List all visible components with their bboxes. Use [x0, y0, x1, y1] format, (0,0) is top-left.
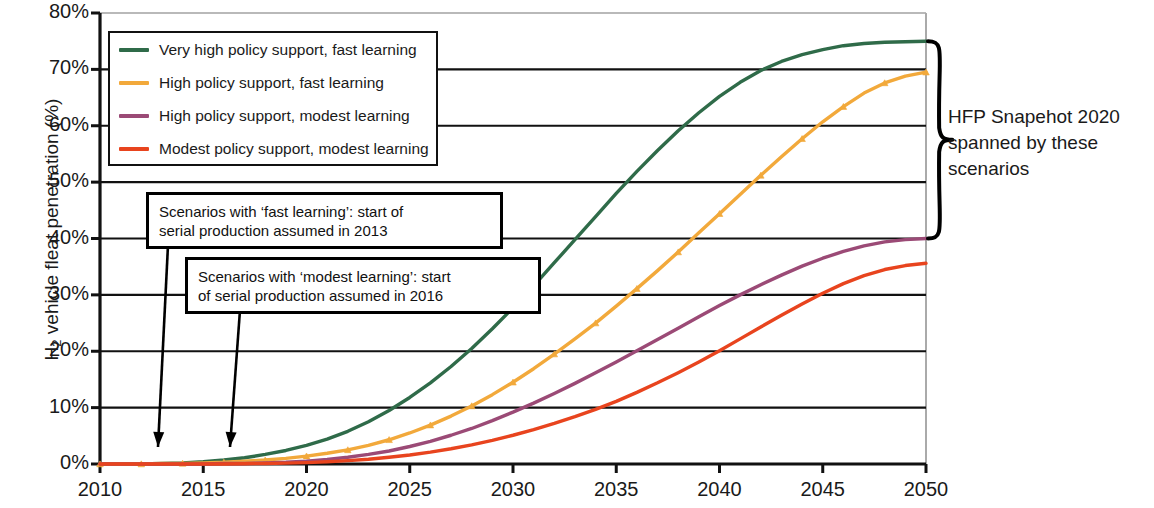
- legend-item-modest-modest: Modest policy support, modest learning: [110, 132, 436, 165]
- x-tick-label-2040: 2040: [675, 478, 765, 501]
- arrow-modest-learning-shaft: [230, 310, 240, 447]
- y-tick-label-80: 80%: [9, 0, 89, 23]
- annotation-modest-learning: Scenarios with ‘modest learning’: start …: [185, 257, 541, 314]
- chart-figure: H2 vehicle fleat penetration (%) Very hi…: [0, 0, 1154, 508]
- y-tick-label-60: 60%: [9, 113, 89, 136]
- y-tick-label-40: 40%: [9, 226, 89, 249]
- brace-note-line2: spanned by these: [948, 130, 1148, 156]
- arrow-fast-learning-head: [153, 432, 164, 447]
- y-tick-label-50: 50%: [9, 169, 89, 192]
- brace-note-line3: scenarios: [948, 156, 1148, 182]
- legend-label: High policy support, fast learning: [159, 74, 384, 92]
- annotation-modest-learning-line1: Scenarios with ‘modest learning’: start: [198, 267, 529, 286]
- x-tick-label-2010: 2010: [55, 478, 145, 501]
- legend-label: Very high policy support, fast learning: [159, 41, 417, 59]
- x-tick-label-2045: 2045: [778, 478, 868, 501]
- legend-color-swatch: [119, 81, 149, 85]
- legend-item-high-fast: High policy support, fast learning: [110, 66, 436, 99]
- chart-legend: Very high policy support, fast learning …: [108, 31, 438, 166]
- annotation-fast-learning-line1: Scenarios with ‘fast learning’: start of: [159, 202, 491, 221]
- annotation-fast-learning: Scenarios with ‘fast learning’: start of…: [146, 192, 503, 249]
- y-tick-label-10: 10%: [9, 395, 89, 418]
- y-tick-label-20: 20%: [9, 338, 89, 361]
- annotation-fast-learning-line2: serial production assumed in 2013: [159, 221, 491, 240]
- brace-note-line1: HFP Snapehot 2020: [948, 104, 1148, 130]
- annotation-brace-note: HFP Snapehot 2020 spanned by these scena…: [948, 104, 1148, 183]
- x-tick-label-2030: 2030: [468, 478, 558, 501]
- arrow-fast-learning-shaft: [158, 245, 168, 447]
- legend-color-swatch: [119, 114, 149, 118]
- legend-label: High policy support, modest learning: [159, 107, 410, 125]
- legend-item-very-high-fast: Very high policy support, fast learning: [110, 33, 436, 66]
- x-tick-label-2050: 2050: [881, 478, 971, 501]
- y-tick-label-70: 70%: [9, 56, 89, 79]
- x-tick-label-2015: 2015: [158, 478, 248, 501]
- legend-color-swatch: [119, 147, 149, 151]
- legend-item-high-modest: High policy support, modest learning: [110, 99, 436, 132]
- legend-color-swatch: [119, 48, 149, 52]
- annotation-modest-learning-line2: of serial production assumed in 2016: [198, 286, 529, 305]
- x-tick-label-2035: 2035: [571, 478, 661, 501]
- y-tick-label-0: 0%: [9, 451, 89, 474]
- x-tick-label-2020: 2020: [262, 478, 352, 501]
- y-tick-label-30: 30%: [9, 282, 89, 305]
- x-tick-label-2025: 2025: [365, 478, 455, 501]
- legend-label: Modest policy support, modest learning: [159, 140, 429, 158]
